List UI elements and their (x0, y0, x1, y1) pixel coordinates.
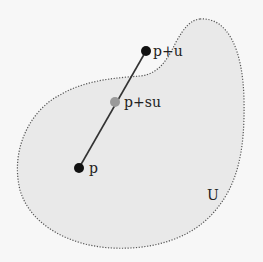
label-region-u: U (207, 187, 219, 203)
label-p-plus-su: p+su (124, 94, 161, 110)
point-p-plus-su (110, 97, 120, 107)
point-p (74, 163, 84, 173)
region-u-shape (17, 19, 244, 248)
diagram-canvas: p+u p+su p U (0, 0, 263, 262)
label-p: p (89, 160, 98, 176)
point-p-plus-u (141, 46, 151, 56)
label-p-plus-u: p+u (153, 43, 183, 59)
diagram-svg: p+u p+su p U (0, 0, 263, 262)
